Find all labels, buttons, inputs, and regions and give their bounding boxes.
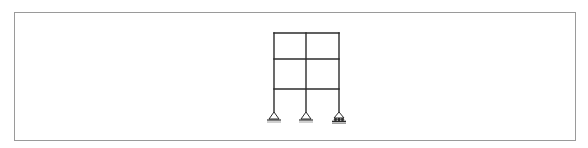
roller-support-icon xyxy=(332,112,346,124)
pin-support-icon xyxy=(267,112,281,122)
diagram-canvas xyxy=(0,0,588,148)
pin-support-icon xyxy=(299,112,313,122)
structural-frame xyxy=(0,0,588,148)
